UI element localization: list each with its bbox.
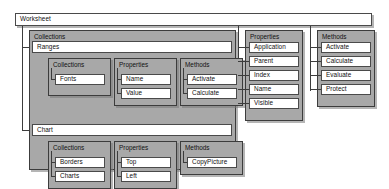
node-label: Left <box>126 173 137 179</box>
node-ranges-collections-item-0[interactable]: Fonts <box>55 74 105 85</box>
node-worksheet[interactable]: Worksheet <box>15 13 372 26</box>
node-label: Activate <box>192 76 215 82</box>
diagram-canvas: Worksheet Collections Ranges Collections… <box>0 0 389 189</box>
node-worksheet-methods-item-1[interactable]: Calculate <box>321 56 371 67</box>
node-label: Calculate <box>326 58 353 64</box>
node-label: Visible <box>254 100 273 106</box>
node-label: Protect <box>326 86 347 92</box>
connector-ranges-properties-spine <box>117 68 118 93</box>
node-label: Charts <box>60 173 79 179</box>
node-chart-properties-item-1[interactable]: Left <box>121 171 171 182</box>
connector-chart-collections-spine <box>51 151 52 176</box>
section-ranges-methods-label: Methods <box>185 62 210 68</box>
node-ranges-properties-item-0[interactable]: Name <box>121 74 171 85</box>
node-worksheet-properties-item-3[interactable]: Name <box>249 84 299 95</box>
node-chart[interactable]: Chart <box>32 124 232 136</box>
node-ranges-methods-item-1[interactable]: Calculate <box>187 88 237 99</box>
node-worksheet-properties-item-2[interactable]: Index <box>249 70 299 81</box>
node-label: Borders <box>60 159 83 165</box>
node-label: CopyPicture <box>192 159 227 165</box>
node-label: Name <box>126 76 143 82</box>
node-ranges-properties-item-1[interactable]: Value <box>121 88 171 99</box>
node-ranges[interactable]: Ranges <box>32 41 232 53</box>
group-worksheet-properties-label: Properties <box>250 34 279 40</box>
node-chart-collections-item-1[interactable]: Charts <box>55 171 105 182</box>
node-label: Application <box>254 44 286 50</box>
node-worksheet-properties-item-1[interactable]: Parent <box>249 56 299 67</box>
node-label: Value <box>126 90 142 96</box>
node-label: Name <box>254 86 271 92</box>
connector-methods-spine <box>310 26 311 91</box>
node-label: Evaluate <box>326 72 351 78</box>
section-chart-collections-label: Collections <box>53 145 84 151</box>
connector-chart-properties-spine <box>117 151 118 176</box>
group-worksheet-methods-label: Methods <box>322 34 347 40</box>
node-label: Fonts <box>60 76 76 82</box>
node-chart-label: Chart <box>37 127 53 133</box>
node-label: Index <box>254 72 270 78</box>
node-label: Calculate <box>192 90 219 96</box>
node-chart-methods-item-0[interactable]: CopyPicture <box>187 157 237 168</box>
node-label: Activate <box>326 44 349 50</box>
connector-root-spine <box>22 26 23 130</box>
node-ranges-label: Ranges <box>37 44 59 50</box>
node-worksheet-properties-item-4[interactable]: Visible <box>249 98 299 109</box>
section-ranges-collections-label: Collections <box>53 62 84 68</box>
node-worksheet-properties-item-0[interactable]: Application <box>249 42 299 53</box>
node-chart-collections-item-0[interactable]: Borders <box>55 157 105 168</box>
node-worksheet-methods-item-2[interactable]: Evaluate <box>321 70 371 81</box>
section-chart-methods-label: Methods <box>185 145 210 151</box>
node-label: Parent <box>254 58 273 64</box>
node-label: Top <box>126 159 136 165</box>
section-ranges-properties-label: Properties <box>119 62 148 68</box>
node-worksheet-methods-item-0[interactable]: Activate <box>321 42 371 53</box>
section-chart-properties-label: Properties <box>119 145 148 151</box>
node-worksheet-label: Worksheet <box>20 16 51 22</box>
connector-ranges-methods-spine <box>183 68 184 93</box>
node-ranges-methods-item-0[interactable]: Activate <box>187 74 237 85</box>
group-collections-label: Collections <box>34 34 65 40</box>
node-chart-properties-item-0[interactable]: Top <box>121 157 171 168</box>
node-worksheet-methods-item-3[interactable]: Protect <box>321 84 371 95</box>
